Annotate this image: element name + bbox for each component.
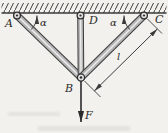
- label-point-d: D: [88, 14, 98, 27]
- truss-figure: A D C B α α l F: [0, 0, 168, 133]
- scan-smudge: [8, 112, 60, 116]
- pin-a: [14, 12, 21, 19]
- label-angle-alpha-right: α: [110, 17, 117, 28]
- scan-artifacts: [8, 112, 130, 131]
- label-force-f: F: [84, 109, 93, 122]
- pin-d: [77, 12, 84, 19]
- bar-DB: [81, 16, 82, 78]
- label-point-b: B: [64, 82, 73, 95]
- scan-smudge: [38, 126, 130, 131]
- truss-diagram-canvas: A D C B α α l F: [0, 0, 168, 133]
- bar-AB: [17, 16, 81, 78]
- label-length-l: l: [117, 51, 120, 62]
- ceiling-hatch: [2, 3, 167, 13]
- label-point-c: C: [155, 13, 164, 26]
- label-point-a: A: [4, 17, 13, 30]
- pin-b: [77, 74, 84, 81]
- ceiling: [2, 3, 167, 13]
- pin-c: [141, 12, 148, 19]
- extension-line-b: [85, 81, 101, 97]
- label-angle-alpha-left: α: [40, 17, 47, 28]
